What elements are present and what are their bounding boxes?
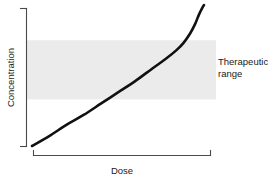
therapeutic-range-line-1: Therapeutic [218,56,278,68]
chart-figure: Concentration Dose Therapeutic range [0,0,279,177]
x-axis-label-text: Dose [111,165,133,176]
y-axis-label-text: Concentration [6,48,17,107]
therapeutic-range-annotation: Therapeutic range [218,56,278,79]
x-axis-label: Dose [33,160,211,177]
therapeutic-range-line-2: range [218,68,278,80]
x-axis-bracket [34,151,211,156]
chart-canvas [0,0,279,177]
y-axis-label: Concentration [0,0,22,155]
